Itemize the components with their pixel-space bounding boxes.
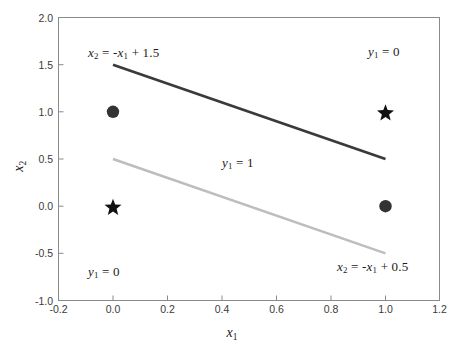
- region-tr-eq: = 0: [379, 44, 400, 59]
- x-tick-label-7: 1.2: [432, 303, 447, 315]
- x-tick-label-2: 0.2: [160, 303, 175, 315]
- data-point-circle-0-1: [107, 106, 119, 118]
- y-tick-label-2: 0.0: [25, 200, 53, 212]
- annotation-region-bottom-left: y1 = 0: [88, 264, 120, 280]
- annotation-lower-line-equation: x2 = -x1 + 0.5: [337, 259, 408, 275]
- chart-figure: -0.2 0.0 0.2 0.4 0.6 0.8 1.0 1.2 -1.0 -0…: [0, 0, 465, 349]
- y-tick-label-6: 2.0: [25, 12, 53, 24]
- y-tick-label-1: -0.5: [25, 247, 53, 259]
- annotation-region-center: y1 = 1: [222, 155, 254, 171]
- y-tick-label-3: 0.5: [25, 153, 53, 165]
- data-point-circle-1-0: [379, 200, 391, 212]
- annotation-region-top-right: y1 = 0: [368, 44, 400, 60]
- y-tick-label-4: 1.0: [25, 106, 53, 118]
- region-c-eq: = 1: [233, 155, 254, 170]
- y-axis-title-sub: 2: [18, 161, 28, 166]
- y-axis-title: x2: [11, 161, 28, 172]
- lower-eq-mid: = -: [348, 259, 367, 274]
- lower-eq-tail: + 0.5: [377, 259, 408, 274]
- region-bl-eq: = 0: [99, 264, 120, 279]
- y-axis-title-base: x: [11, 166, 26, 172]
- x-tick-label-4: 0.6: [269, 303, 284, 315]
- x-tick-label-6: 1.0: [378, 303, 393, 315]
- upper-eq-tail: + 1.5: [128, 45, 159, 60]
- annotation-upper-line-equation: x2 = -x1 + 1.5: [88, 45, 159, 61]
- x-tick-label-5: 0.8: [324, 303, 339, 315]
- upper-eq-mid: = -: [99, 45, 118, 60]
- y-tick-label-5: 1.5: [25, 59, 53, 71]
- x-axis-title: x1: [227, 325, 238, 342]
- y-tick-label-0: -1.0: [25, 295, 53, 307]
- x-tick-label-1: 0.0: [106, 303, 121, 315]
- x-tick-label-3: 0.4: [215, 303, 230, 315]
- x-axis-title-sub: 1: [233, 332, 238, 342]
